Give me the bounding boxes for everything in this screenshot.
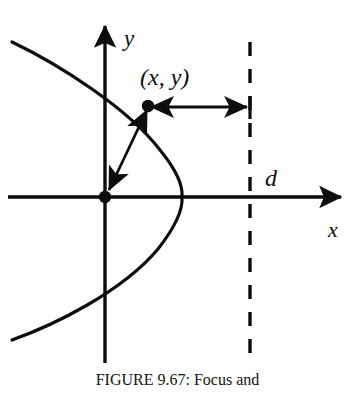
y-axis-label: y: [122, 26, 135, 51]
x-axis-label: x: [327, 217, 338, 242]
focus-point-dot: [99, 191, 111, 203]
figure-diagram: y x (x, y) d: [0, 0, 355, 393]
curve-point-label: (x, y): [140, 64, 189, 90]
focal-radius-double-arrow: [109, 110, 147, 190]
figure-container: y x (x, y) d FIGURE 9.67: Focus and: [0, 0, 355, 393]
curve-point-dot: [142, 100, 154, 112]
figure-caption: FIGURE 9.67: Focus and: [0, 370, 355, 389]
distance-label: d: [265, 165, 278, 191]
